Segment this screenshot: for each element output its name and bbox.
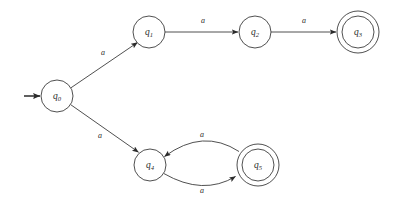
state-q3-accepting[interactable]: q3 xyxy=(337,11,379,53)
state-q1-label-sub: 1 xyxy=(150,31,153,38)
edge-q0-q4-line xyxy=(71,105,139,153)
state-q2[interactable]: q2 xyxy=(239,16,271,48)
edge-q5-q4-curve xyxy=(165,141,240,157)
edge-label-q0-q1: a xyxy=(101,48,105,57)
state-q1[interactable]: q1 xyxy=(133,16,165,48)
edge-q0-q1: a xyxy=(71,43,138,88)
state-q3-label-sub: 3 xyxy=(358,31,363,38)
edge-q4-q5-curve xyxy=(164,174,236,186)
state-q5-accepting[interactable]: q5 xyxy=(237,144,279,186)
edge-label-q1-q2: a xyxy=(201,16,205,25)
edge-label-q0-q4: a xyxy=(98,131,102,140)
edge-q0-q4: a xyxy=(71,105,139,153)
automaton-diagram-canvas: a a a a a a q0 xyxy=(0,0,406,204)
edge-label-q4-q5: a xyxy=(200,186,204,195)
edge-q2-q3: a xyxy=(271,16,336,32)
edge-label-q2-q3: a xyxy=(302,16,306,25)
edge-q1-q2: a xyxy=(165,16,238,32)
edge-label-q5-q4: a xyxy=(200,130,204,139)
automaton-svg: a a a a a a q0 xyxy=(0,0,406,204)
edge-q4-q5: a xyxy=(164,174,236,195)
edge-q5-q4: a xyxy=(165,130,240,157)
state-q4[interactable]: q4 xyxy=(134,149,166,181)
state-q0[interactable]: q0 xyxy=(41,80,73,112)
